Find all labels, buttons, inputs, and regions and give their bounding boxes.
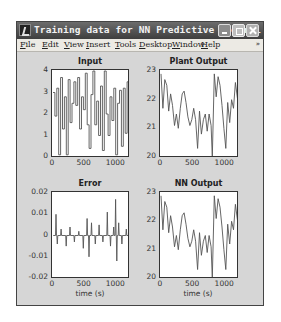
x-tick-label: 500 [180, 279, 204, 288]
menu-insert[interactable]: Insert [86, 40, 110, 49]
menu-edit[interactable]: Edit [42, 40, 59, 49]
axes-plant-output[interactable] [159, 69, 238, 157]
menu-tools[interactable]: Tools [115, 40, 136, 49]
y-tick-label: 21 [132, 122, 156, 131]
x-tick-label: 500 [72, 279, 96, 288]
matlab-figure-icon [19, 24, 31, 36]
plot-line [160, 70, 238, 157]
axes-error[interactable] [51, 191, 129, 278]
close-button[interactable] [246, 24, 259, 37]
x-tick-label: 0 [40, 279, 64, 288]
title-bar[interactable]: Training data for NN Predictive Control [17, 22, 263, 39]
y-tick-label: 0.02 [24, 187, 48, 196]
figure-canvas: Input 0123405001000 Plant Output 2021222… [17, 52, 263, 305]
x-tick-label: 1000 [212, 158, 236, 167]
plot-title-input: Input [51, 57, 129, 66]
plot-line [52, 70, 129, 157]
x-tick-label: 0 [148, 158, 172, 167]
axes-input[interactable] [51, 69, 129, 157]
y-tick-label: 0 [24, 230, 48, 239]
y-tick-label: 22 [132, 215, 156, 224]
figure-window: Training data for NN Predictive Control … [16, 21, 264, 306]
x-tick-label: 0 [40, 158, 64, 167]
y-tick-label: 21 [132, 244, 156, 253]
menu-help[interactable]: Help [201, 40, 220, 49]
y-tick-label: 2 [24, 108, 48, 117]
menu-overflow-icon[interactable]: » [256, 40, 260, 48]
y-tick-label: 4 [24, 65, 48, 74]
y-tick-label: -0.01 [24, 251, 48, 260]
plot-title-plant-output: Plant Output [159, 57, 238, 66]
plot-title-nn-output: NN Output [159, 179, 238, 188]
plot-line [52, 192, 129, 278]
xlabel-nn-output: time (s) [168, 289, 228, 298]
axes-nn-output[interactable] [159, 191, 238, 278]
y-tick-label: 23 [132, 187, 156, 196]
y-tick-label: 3 [24, 87, 48, 96]
maximize-button[interactable] [232, 24, 245, 37]
y-tick-label: 0.01 [24, 208, 48, 217]
x-tick-label: 1000 [103, 279, 127, 288]
x-tick-label: 1000 [103, 158, 127, 167]
x-tick-label: 500 [180, 158, 204, 167]
minimize-button[interactable] [218, 24, 231, 37]
menu-window[interactable]: Window [172, 40, 205, 49]
x-tick-label: 1000 [212, 279, 236, 288]
plot-line [160, 192, 238, 278]
menu-file[interactable]: File [20, 40, 35, 49]
menu-view[interactable]: View [64, 40, 84, 49]
y-tick-label: 22 [132, 94, 156, 103]
xlabel-error: time (s) [60, 289, 120, 298]
y-tick-label: 23 [132, 65, 156, 74]
plot-title-error: Error [51, 179, 129, 188]
y-tick-label: 1 [24, 130, 48, 139]
x-tick-label: 500 [72, 158, 96, 167]
menu-bar: File Edit View Insert Tools Desktop Wind… [17, 39, 263, 52]
x-tick-label: 0 [148, 279, 172, 288]
menu-desktop[interactable]: Desktop [139, 40, 172, 49]
